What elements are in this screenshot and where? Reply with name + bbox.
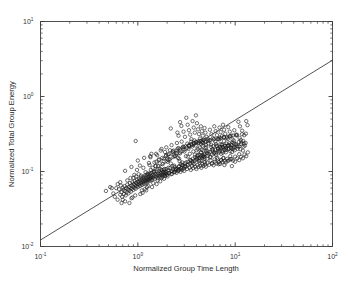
x-axis-title: Normalized Group Time Length (133, 264, 239, 273)
scatter-plot: 10-1100101102 10-210-1100101 Normalized … (0, 0, 349, 282)
figure-container: 10-1100101102 10-210-1100101 Normalized … (0, 0, 349, 282)
plot-background (0, 0, 349, 282)
y-axis-title: Normalized Total Group Energy (7, 81, 16, 187)
